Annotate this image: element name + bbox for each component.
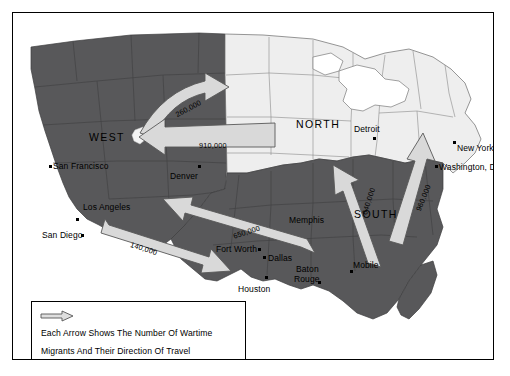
city-dot-houston <box>265 276 268 279</box>
region-north <box>225 34 481 173</box>
city-dot-new-york <box>453 141 456 144</box>
legend: Each Arrow Shows The Number Of Wartime M… <box>31 301 246 360</box>
city-dot-detroit <box>373 137 376 140</box>
map-frame: WEST NORTH SOUTH San Francisco Los Angel… <box>12 12 494 360</box>
right-arrow-icon <box>40 310 74 322</box>
city-dot-fort-worth <box>258 248 261 251</box>
migration-map-figure: WEST NORTH SOUTH San Francisco Los Angel… <box>0 0 510 376</box>
city-dot-san-diego <box>81 234 84 237</box>
city-dot-san-francisco <box>49 165 52 168</box>
city-dot-washington-dc <box>435 165 438 168</box>
city-dot-mobile <box>350 270 353 273</box>
city-dot-dallas <box>263 256 266 259</box>
legend-text-line-2: Migrants And Their Direction Of Travel <box>41 346 190 356</box>
city-dot-baton-rouge <box>318 281 321 284</box>
legend-text-line-1: Each Arrow Shows The Number Of Wartime <box>41 328 212 338</box>
city-dot-los-angeles <box>76 218 79 221</box>
city-dot-denver <box>198 165 201 168</box>
